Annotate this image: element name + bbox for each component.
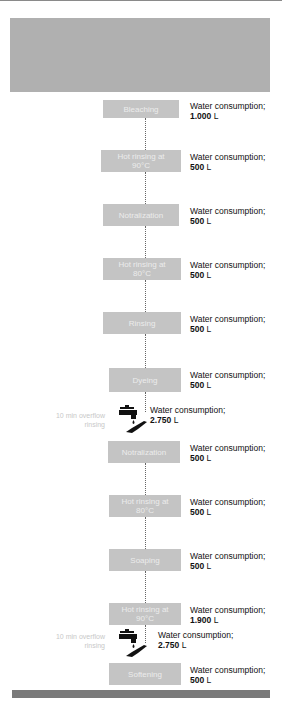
consumption-soaping: Water consumption;500 L <box>190 551 265 571</box>
header-band <box>10 18 270 92</box>
consumption-hot-rinsing-80: Water consumption;500 L <box>190 260 265 280</box>
connector <box>145 517 146 549</box>
step-rinsing: Rinsing <box>103 312 181 334</box>
consumption-hot-rinsing-80-2: Water consumption;500 L <box>190 497 265 517</box>
connector <box>145 172 146 204</box>
step-notralization-2: Notralization <box>108 441 180 463</box>
consumption-hot-rinsing-90-2: Water consumption;1.900 L <box>190 605 265 625</box>
step-hot-rinsing-90-2: Hot rinsing at 90°C <box>109 603 181 625</box>
connector <box>145 334 146 368</box>
consumption-notralization-2: Water consumption;500 L <box>190 443 265 463</box>
overflow-label: 10 min overflow rinsing <box>45 632 105 650</box>
consumption-bleaching: Water consumption;1.000 L <box>190 101 265 121</box>
top-rule <box>0 0 282 1</box>
step-bleaching: Bleaching <box>103 100 179 118</box>
consumption-softening: Water consumption;500 L <box>190 665 265 685</box>
overflow-label: 10 min overflow rinsing <box>45 411 105 429</box>
connector <box>145 226 146 258</box>
step-soaping: Soaping <box>109 549 181 571</box>
step-hot-rinsing-80-2: Hot rinsing at 80°C <box>109 495 181 517</box>
connector <box>145 118 146 150</box>
consumption-hot-rinsing-90: Water consumption;500 L <box>190 152 265 172</box>
consumption-dyeing: Water consumption;500 L <box>190 370 265 390</box>
consumption-overflow-1: Water consumption;2.750 L <box>150 405 225 425</box>
footer-band <box>12 690 270 698</box>
step-notralization: Notralization <box>103 204 179 226</box>
faucet-hand-icon <box>118 404 150 434</box>
step-softening: Softening <box>109 663 181 685</box>
step-hot-rinsing-80: Hot rinsing at 80°C <box>103 258 181 280</box>
connector <box>145 571 146 603</box>
step-hot-rinsing-90: Hot rinsing at 90°C <box>101 150 181 172</box>
consumption-notralization: Water consumption;500 L <box>190 206 265 226</box>
connector <box>145 463 146 495</box>
step-dyeing: Dyeing <box>109 368 181 392</box>
faucet-hand-icon <box>118 628 150 658</box>
consumption-rinsing: Water consumption;500 L <box>190 314 265 334</box>
consumption-overflow-2: Water consumption;2.750 L <box>158 630 233 650</box>
connector <box>145 280 146 312</box>
